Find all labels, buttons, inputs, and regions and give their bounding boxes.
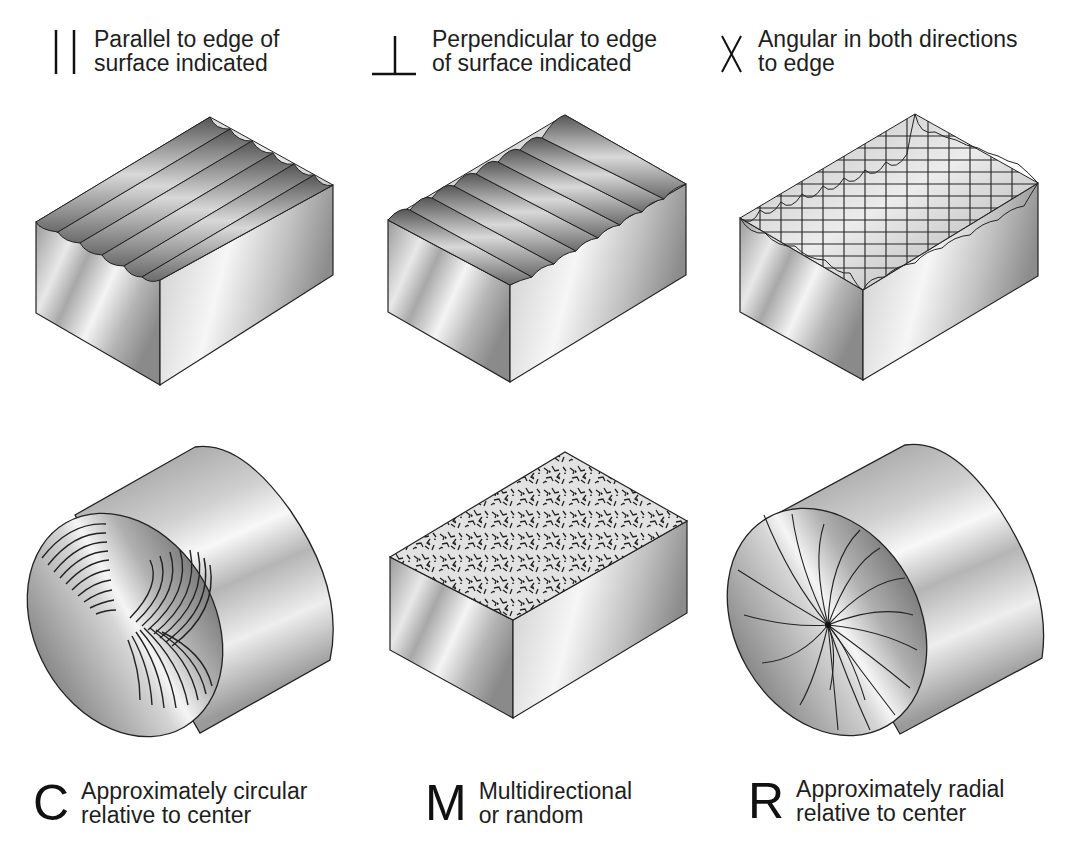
multidirectional-lay-symbol: M xyxy=(425,778,467,828)
lay-desc-line2: relative to center xyxy=(81,803,307,827)
block-angular-lay-illustration xyxy=(720,80,1081,400)
lay-desc-line1: Perpendicular to edge xyxy=(432,27,657,51)
lay-label-parallel: Parallel to edge of surface indicated xyxy=(50,26,279,76)
cylinder-circular-lay-illustration xyxy=(0,400,360,760)
radial-lay-symbol: R xyxy=(748,776,784,826)
lay-desc-line1: Approximately circular xyxy=(81,779,307,803)
lay-desc-line2: of surface indicated xyxy=(432,51,657,75)
lay-desc-line2: or random xyxy=(479,803,632,827)
lay-label-angular: Angular in both directions to edge xyxy=(720,26,1018,76)
block-multidirectional-lay-illustration xyxy=(360,420,720,740)
parallel-lay-icon xyxy=(50,26,80,76)
lay-label-circular: C Approximately circular relative to cen… xyxy=(33,778,307,828)
angular-lay-icon xyxy=(720,26,744,76)
perpendicular-lay-icon xyxy=(372,26,418,76)
block-parallel-lay-illustration xyxy=(0,80,360,400)
lay-desc-line1: Multidirectional xyxy=(479,779,632,803)
lay-desc-line1: Approximately radial xyxy=(796,777,1004,801)
lay-desc-line2: to edge xyxy=(758,51,1018,75)
cylinder-radial-lay-illustration xyxy=(720,400,1081,760)
lay-desc-line2: surface indicated xyxy=(94,51,279,75)
circular-lay-symbol: C xyxy=(33,778,69,828)
lay-label-radial: R Approximately radial relative to cente… xyxy=(748,776,1004,826)
lay-label-multidirectional: M Multidirectional or random xyxy=(425,778,632,828)
lay-label-perpendicular: Perpendicular to edge of surface indicat… xyxy=(372,26,657,76)
block-perpendicular-lay-illustration xyxy=(360,80,720,400)
lay-desc-line2: relative to center xyxy=(796,801,1004,825)
lay-desc-line1: Parallel to edge of xyxy=(94,27,279,51)
lay-desc-line1: Angular in both directions xyxy=(758,27,1018,51)
